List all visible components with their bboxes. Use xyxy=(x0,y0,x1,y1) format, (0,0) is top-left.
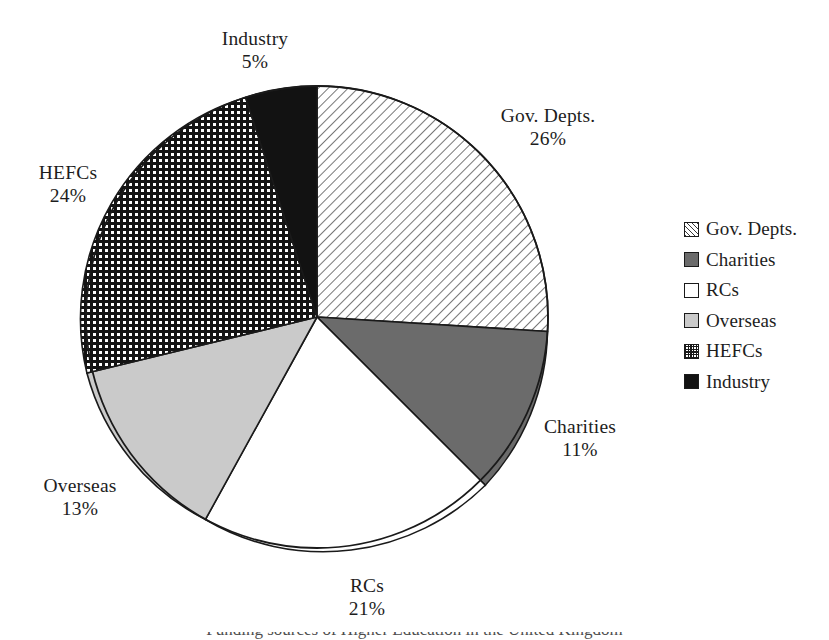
slice-label-rcs-name: RCs xyxy=(349,574,385,597)
legend-label-hefcs: HEFCs xyxy=(706,340,762,362)
slice-label-industry: Industry 5% xyxy=(222,27,289,73)
pie-chart-figure: Industry 5% Gov. Depts. 26% HEFCs 24% Ov… xyxy=(0,0,829,640)
legend-label-rcs: RCs xyxy=(706,279,739,301)
chart-legend: Gov. Depts. Charities RCs Overseas HEFCs… xyxy=(684,214,824,397)
slice-label-industry-name: Industry xyxy=(222,27,289,50)
legend-swatch-gov-depts-icon xyxy=(684,222,699,237)
legend-item-rcs: RCs xyxy=(684,275,824,306)
figure-caption-cropped: Funding sources of Higher Education in t… xyxy=(0,632,829,640)
legend-swatch-hefcs-icon xyxy=(684,344,699,359)
legend-swatch-rcs-icon xyxy=(684,283,699,298)
slice-label-hefcs: HEFCs 24% xyxy=(39,161,97,207)
legend-item-industry: Industry xyxy=(684,367,824,398)
legend-item-gov-depts: Gov. Depts. xyxy=(684,214,824,245)
legend-label-gov-depts: Gov. Depts. xyxy=(706,218,797,240)
slice-label-charities-pct: 11% xyxy=(544,438,616,461)
legend-item-charities: Charities xyxy=(684,245,824,276)
legend-swatch-overseas-icon xyxy=(684,313,699,328)
slice-label-hefcs-name: HEFCs xyxy=(39,161,97,184)
legend-item-hefcs: HEFCs xyxy=(684,336,824,367)
slice-label-charities: Charities 11% xyxy=(544,415,616,461)
slice-label-charities-name: Charities xyxy=(544,415,616,438)
slice-label-industry-pct: 5% xyxy=(222,50,289,73)
slice-label-hefcs-pct: 24% xyxy=(39,184,97,207)
legend-swatch-charities-icon xyxy=(684,252,699,267)
slice-label-overseas-pct: 13% xyxy=(43,497,116,520)
chart-stage: Industry 5% Gov. Depts. 26% HEFCs 24% Ov… xyxy=(0,0,829,640)
slice-label-rcs: RCs 21% xyxy=(349,574,385,620)
legend-label-industry: Industry xyxy=(706,371,770,393)
slice-label-gov-depts: Gov. Depts. 26% xyxy=(501,104,596,150)
slice-label-gov-depts-name: Gov. Depts. xyxy=(501,104,596,127)
slice-label-overseas-name: Overseas xyxy=(43,474,116,497)
legend-swatch-industry-icon xyxy=(684,374,699,389)
slice-label-gov-depts-pct: 26% xyxy=(501,127,596,150)
legend-label-overseas: Overseas xyxy=(706,310,776,332)
slice-label-overseas: Overseas 13% xyxy=(43,474,116,520)
figure-caption-text: Funding sources of Higher Education in t… xyxy=(206,632,622,640)
legend-label-charities: Charities xyxy=(706,249,776,271)
legend-item-overseas: Overseas xyxy=(684,306,824,337)
slice-label-rcs-pct: 21% xyxy=(349,597,385,620)
